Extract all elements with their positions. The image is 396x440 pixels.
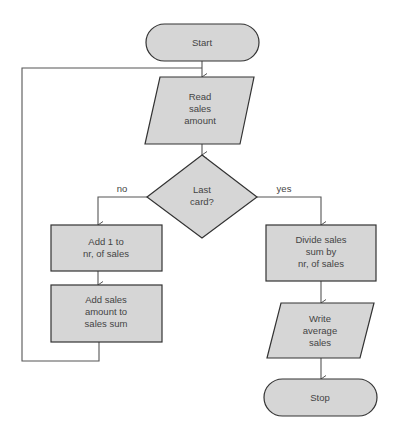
node-addsum-line-1: Add sales (85, 294, 127, 305)
node-read-line-1: Read (189, 91, 212, 102)
node-divide-line-2: sum by (306, 246, 337, 257)
node-divide-line-3: nr, of sales (298, 258, 344, 269)
edge-no-branch (98, 197, 147, 225)
node-decision: Last card? (147, 155, 257, 238)
edge-label-yes: yes (277, 183, 292, 194)
node-add1: Add 1 to nr, of sales (51, 225, 162, 271)
node-add1-line-2: nr, of sales (83, 248, 129, 259)
node-write-line-2: average (303, 325, 337, 336)
node-addsum-line-2: amount to (85, 306, 127, 317)
node-addsum-line-3: sales sum (85, 318, 128, 329)
node-read-line-3: amount (184, 115, 216, 126)
node-start-label: Start (192, 37, 212, 48)
edge-yes-branch (257, 197, 321, 225)
node-read-line-2: sales (189, 103, 211, 114)
flowchart-canvas: Start Read sales amount Last card? no ye… (0, 0, 396, 440)
node-stop: Stop (264, 379, 377, 416)
node-stop-label: Stop (310, 392, 330, 403)
node-read: Read sales amount (145, 77, 254, 144)
node-divide-line-1: Divide sales (295, 234, 346, 245)
node-decision-line-2: card? (190, 196, 214, 207)
node-decision-line-1: Last (193, 184, 211, 195)
node-write: Write average sales (267, 303, 374, 358)
node-addsum: Add sales amount to sales sum (51, 285, 162, 342)
node-divide: Divide sales sum by nr, of sales (266, 225, 376, 281)
node-start: Start (146, 24, 259, 61)
edge-label-no: no (117, 183, 128, 194)
node-add1-line-1: Add 1 to (88, 236, 123, 247)
node-write-line-1: Write (309, 313, 331, 324)
node-write-line-3: sales (309, 337, 331, 348)
